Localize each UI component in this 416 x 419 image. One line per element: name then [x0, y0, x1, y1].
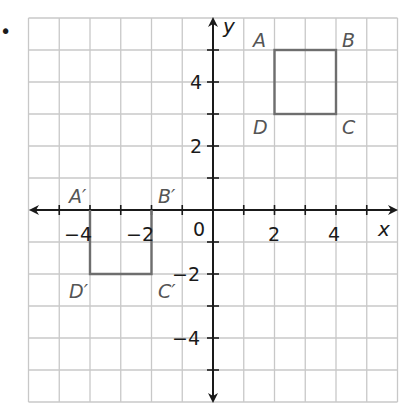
- problem-marker: •: [0, 20, 11, 42]
- vertex-label-b: B: [342, 29, 355, 51]
- x-tick-label: −2: [126, 223, 154, 245]
- vertex-label-d: D: [253, 116, 268, 138]
- x-tick-label: −4: [64, 223, 92, 245]
- y-tick-label: 2: [190, 135, 202, 157]
- y-tick-label: 4: [190, 71, 202, 93]
- coordinate-plane: • y x 0 −4 −2 2 4 4 2 −2 −4 A B C D A′ B…: [0, 0, 416, 419]
- vertex-label-c: C: [342, 116, 356, 138]
- y-tick-label: −2: [172, 263, 200, 285]
- vertex-label-d-prime: D′: [69, 280, 89, 302]
- y-axis-label: y: [222, 14, 236, 38]
- x-tick-label: 4: [328, 223, 340, 245]
- x-axis-label: x: [377, 217, 390, 241]
- x-tick-label: 2: [268, 223, 280, 245]
- vertex-label-a-prime: A′: [67, 185, 87, 207]
- vertex-label-b-prime: B′: [158, 185, 176, 207]
- vertex-label-c-prime: C′: [158, 280, 176, 302]
- vertex-label-a: A: [251, 29, 266, 51]
- y-tick-label: −4: [172, 327, 200, 349]
- origin-label: 0: [193, 218, 205, 240]
